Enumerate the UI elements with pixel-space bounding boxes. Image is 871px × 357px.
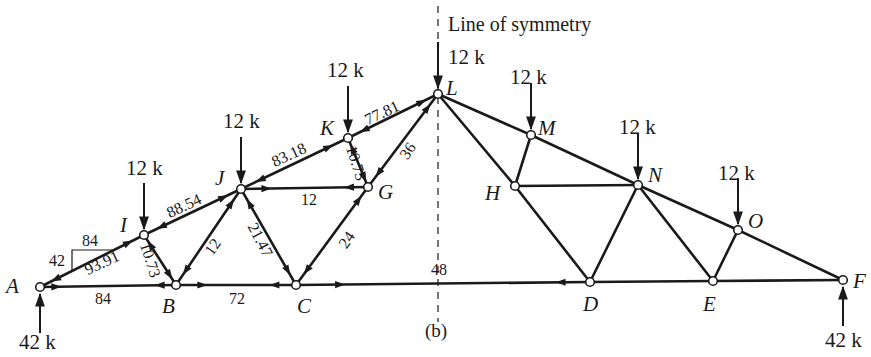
node-label-d: D — [583, 294, 598, 315]
force-arrowhead — [217, 192, 229, 203]
load-label-k: 12 k — [327, 60, 364, 81]
member-lm — [438, 94, 531, 135]
member-of — [738, 230, 843, 280]
force-arrowhead — [197, 281, 207, 288]
joint-h — [511, 182, 520, 191]
node-label-i: I — [120, 215, 127, 236]
joint-g — [364, 183, 373, 192]
joint-f — [839, 276, 848, 285]
force-label-comp-h: 84 — [82, 233, 98, 249]
joint-k — [344, 134, 353, 143]
force-label-comp-v: 42 — [49, 253, 65, 269]
node-label-l: L — [446, 78, 458, 99]
member-ne — [638, 185, 713, 281]
force-arrowhead — [50, 274, 62, 285]
force-arrowhead — [323, 142, 335, 153]
load-label-i: 12 k — [126, 158, 163, 179]
load-label-o: 12 k — [718, 163, 755, 184]
joint-d — [586, 278, 595, 287]
member-lh — [438, 94, 515, 186]
joint-m — [527, 131, 536, 140]
member-hd — [515, 186, 590, 282]
force-arrowhead — [344, 184, 354, 191]
force-arrowhead — [261, 185, 271, 192]
node-label-b: B — [162, 296, 175, 317]
load-label-j: 12 k — [223, 111, 260, 132]
member-mn — [531, 135, 638, 185]
node-label-o: O — [748, 211, 763, 232]
force-arrowhead — [155, 221, 167, 232]
joint-c — [292, 281, 301, 290]
force-arrowhead — [556, 279, 566, 286]
load-label-l: 12 k — [448, 47, 485, 68]
node-label-f: F — [853, 271, 866, 292]
joint-n — [634, 181, 643, 190]
load-arrows — [40, 42, 843, 333]
node-label-j: J — [215, 168, 224, 189]
symmetry-label: Line of symmetry — [448, 14, 591, 34]
member-ef — [713, 280, 843, 281]
node-label-h: H — [485, 183, 500, 204]
node-label-c: C — [297, 296, 311, 317]
member-dn — [590, 185, 638, 282]
node-label-a: A — [6, 276, 19, 297]
force-label-bc: 72 — [229, 291, 245, 307]
force-arrowhead — [335, 281, 345, 288]
force-arrowhead — [155, 282, 165, 289]
joint-i — [140, 231, 149, 240]
force-arrowhead — [416, 96, 428, 107]
node-label-g: G — [378, 182, 393, 203]
force-arrowhead — [269, 281, 279, 288]
load-label-n: 12 k — [619, 117, 656, 138]
joint-l — [434, 90, 443, 99]
member-no — [638, 185, 738, 230]
force-arrowhead — [122, 237, 134, 248]
truss-members — [40, 94, 843, 287]
joint-j — [237, 185, 246, 194]
joint-a — [36, 283, 45, 292]
node-label-k: K — [320, 118, 334, 139]
node-label-n: N — [648, 165, 662, 186]
joint-o — [734, 226, 743, 235]
node-label-e: E — [703, 294, 716, 315]
node-label-m: M — [538, 118, 556, 139]
member-eo — [713, 230, 738, 281]
force-label-jg: 12 — [301, 192, 317, 208]
joint-b — [172, 281, 181, 290]
force-arrowhead — [254, 174, 266, 185]
member-hm — [515, 135, 531, 186]
joint-e — [709, 277, 718, 286]
force-arrowhead — [51, 283, 61, 290]
member-de — [590, 281, 713, 282]
member-hn — [515, 185, 638, 186]
figure-caption: (b) — [425, 321, 447, 340]
force-label-ab: 84 — [95, 291, 111, 307]
force-label-cd: 48 — [431, 262, 447, 278]
reaction-label-f: 42 k — [825, 330, 862, 351]
reaction-label-a: 42 k — [19, 332, 56, 353]
load-label-m: 12 k — [510, 67, 547, 88]
truss-diagram: A B C D E F G H I J K L M N O 12 k 12 k … — [0, 0, 871, 357]
